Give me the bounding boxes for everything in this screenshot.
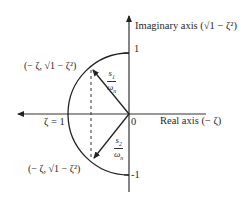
tick-label-top: 1 xyxy=(134,44,139,55)
s1-over-wn-label: s1 ωn xyxy=(107,69,116,94)
origin-label: 0 xyxy=(131,117,136,128)
lower-point-label: (− ζ, √1 − ζ²) xyxy=(28,164,80,174)
zeta-one-label: ζ = 1 xyxy=(44,117,65,128)
imaginary-axis-label: Imaginary axis (√1 − ζ²) xyxy=(135,21,237,32)
s2-vector xyxy=(94,114,129,158)
real-axis-label: Real axis (− ζ) xyxy=(160,116,221,127)
upper-point-label: (− ζ, √1 − ζ²) xyxy=(24,61,76,71)
tick-label-bottom: -1 xyxy=(131,170,140,181)
s2-over-wn-label: s2 ωn xyxy=(114,136,123,161)
